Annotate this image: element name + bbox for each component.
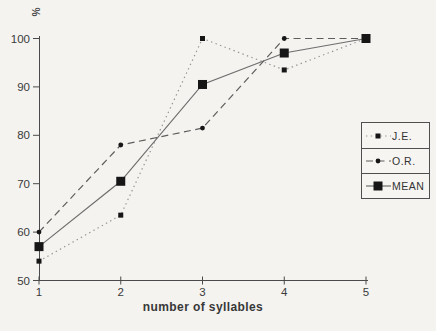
x-tick-label: 2 xyxy=(118,286,124,298)
data-point-marker xyxy=(282,36,287,41)
x-tick-label: 3 xyxy=(199,286,205,298)
y-tick-label: 50 xyxy=(17,275,30,287)
legend-sample-dashed-line-icon xyxy=(365,155,392,167)
data-point-marker xyxy=(35,242,44,251)
legend: J.E. O.R. MEAN xyxy=(361,122,430,199)
y-tick-label: 60 xyxy=(17,226,30,238)
data-point-marker xyxy=(376,133,381,138)
series-line-mean xyxy=(39,39,366,247)
legend-item-je: J.E. xyxy=(362,123,429,148)
x-tick-label: 1 xyxy=(36,286,42,298)
data-point-marker xyxy=(376,159,381,164)
x-tick-label: 4 xyxy=(281,286,288,298)
data-point-marker xyxy=(200,126,205,131)
data-point-marker xyxy=(118,143,123,148)
legend-label-or: O.R. xyxy=(392,155,416,167)
x-axis-label: number of syllables xyxy=(108,300,298,314)
data-point-marker xyxy=(280,49,289,58)
series-line-je xyxy=(39,39,366,262)
x-tick-label: 5 xyxy=(363,286,369,298)
data-point-marker xyxy=(116,177,125,186)
data-point-marker xyxy=(282,67,287,72)
y-tick-label: 80 xyxy=(17,129,30,141)
legend-item-mean: MEAN xyxy=(362,173,429,198)
data-point-marker xyxy=(37,230,42,235)
scanned-line-chart-figure: 506070809010012345 % number of syllables… xyxy=(0,0,436,331)
series-line-or xyxy=(39,39,366,233)
data-point-marker xyxy=(118,213,123,218)
legend-sample-solid-line-icon xyxy=(365,180,392,192)
y-tick-label: 100 xyxy=(11,33,30,45)
legend-item-or: O.R. xyxy=(362,148,429,173)
data-point-marker xyxy=(200,36,205,41)
y-axis-label: % xyxy=(27,5,43,19)
legend-sample-dotted-line-icon xyxy=(365,130,392,142)
data-point-marker xyxy=(198,80,207,89)
legend-label-mean: MEAN xyxy=(392,180,424,192)
data-point-marker xyxy=(374,182,383,191)
y-tick-label: 90 xyxy=(17,81,30,93)
y-tick-label: 70 xyxy=(17,178,30,190)
legend-label-je: J.E. xyxy=(392,130,412,142)
data-point-marker xyxy=(37,259,42,264)
data-point-marker xyxy=(362,34,371,43)
